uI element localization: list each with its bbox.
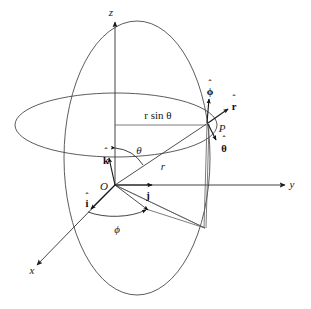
phi-hat-label: ϕ <box>207 86 214 97</box>
r-hat-vector <box>208 109 228 123</box>
j-hat-label: j <box>145 190 150 201</box>
k-hat-label: k <box>103 155 109 166</box>
azimuth-ray <box>115 185 205 228</box>
theta-angle-label: θ <box>136 144 142 156</box>
spherical-coordinates-figure: z y x O P r r sin θ θ ϕ ˆ i ˆ j ˆ k ˆ r … <box>0 0 311 309</box>
theta-hat-label: θ <box>221 143 227 154</box>
r-hat-label: r <box>232 101 237 112</box>
origin-label: O <box>100 180 108 192</box>
phi-angle-label: ϕ <box>114 223 120 235</box>
projection-base-line <box>146 209 205 228</box>
radius-label: r <box>161 160 166 172</box>
x-axis-label: x <box>29 264 35 276</box>
diagram-canvas: z y x O P r r sin θ θ ϕ ˆ i ˆ j ˆ k ˆ r … <box>0 0 311 309</box>
r-sin-theta-label: r sin θ <box>144 109 171 121</box>
phi-direction-ray <box>115 185 148 210</box>
radius-line-op <box>115 123 208 185</box>
y-axis-label: y <box>289 178 295 190</box>
phi-angle-arc <box>88 210 146 216</box>
z-axis-label: z <box>108 6 114 18</box>
point-p-label: P <box>218 122 226 134</box>
i-hat-label: i <box>86 198 89 209</box>
k-hat-vector <box>109 158 115 185</box>
